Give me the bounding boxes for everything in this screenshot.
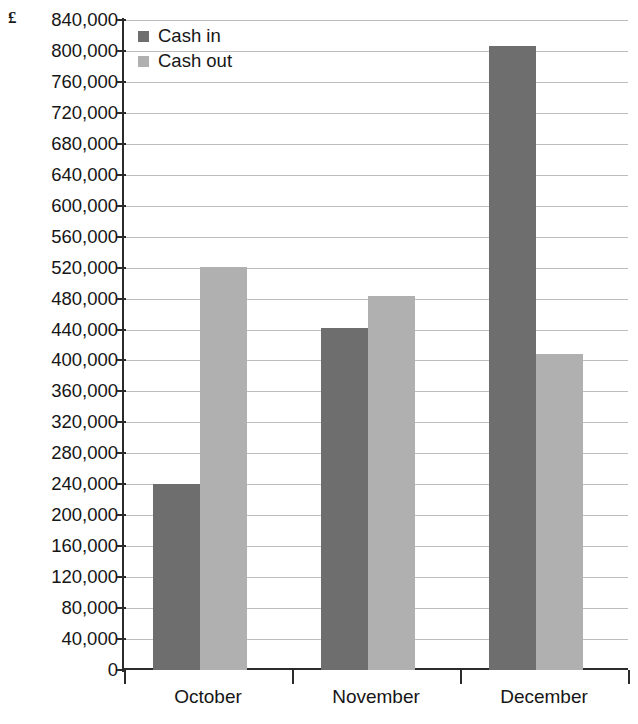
x-axis-tick-mark	[628, 670, 630, 684]
y-axis-tick-label: 160,000	[10, 537, 118, 556]
x-axis-tick-mark	[460, 670, 462, 684]
y-axis-tick-label: 720,000	[10, 104, 118, 123]
gridline	[124, 237, 628, 238]
bar-october-cash-out	[200, 267, 247, 670]
y-axis-tick-mark	[117, 205, 126, 207]
gridline	[124, 20, 628, 21]
y-axis-tick-mark	[117, 236, 126, 238]
y-axis-tick-mark	[117, 267, 126, 269]
y-axis-tick-mark	[117, 483, 126, 485]
y-axis-tick-mark	[117, 298, 126, 300]
bar-chart: £ 840,000800,000760,000720,000680,000640…	[0, 0, 638, 724]
bar-november-cash-in	[321, 328, 368, 670]
x-axis-category-label-october: October	[124, 686, 292, 708]
y-axis-tick-label: 80,000	[10, 599, 118, 618]
gridline	[124, 113, 628, 114]
legend-swatch-icon-cash-in	[138, 31, 149, 42]
x-axis-tick-mark	[292, 670, 294, 684]
y-axis-tick-label: 240,000	[10, 475, 118, 494]
y-axis-tick-label: 320,000	[10, 413, 118, 432]
plot-area	[124, 20, 628, 670]
y-axis-tick-label: 800,000	[10, 42, 118, 61]
legend-label-cash-in: Cash in	[158, 27, 221, 46]
y-axis-tick-label: 560,000	[10, 228, 118, 247]
y-axis-tick-mark	[117, 390, 126, 392]
y-axis-tick-mark	[117, 545, 126, 547]
x-axis-category-label-december: December	[460, 686, 628, 708]
y-axis-tick-mark	[117, 359, 126, 361]
y-axis-tick-mark	[117, 174, 126, 176]
y-axis-tick-label: 600,000	[10, 197, 118, 216]
y-axis-tick-label: 480,000	[10, 290, 118, 309]
legend-item-cash-in: Cash in	[138, 24, 232, 49]
y-axis-tick-mark	[117, 638, 126, 640]
y-axis-tick-label: 680,000	[10, 135, 118, 154]
bar-december-cash-out	[536, 354, 583, 670]
y-axis-tick-label: 280,000	[10, 444, 118, 463]
y-axis-tick-mark	[117, 576, 126, 578]
y-axis-tick-mark	[117, 19, 126, 21]
y-axis-tick-mark	[117, 50, 126, 52]
y-axis-tick-label: 360,000	[10, 382, 118, 401]
y-axis-tick-label: 40,000	[10, 630, 118, 649]
y-axis-tick-label: 640,000	[10, 166, 118, 185]
y-axis-tick-label: 400,000	[10, 351, 118, 370]
y-axis-tick-mark	[117, 607, 126, 609]
gridline	[124, 82, 628, 83]
legend-item-cash-out: Cash out	[138, 49, 232, 74]
bar-november-cash-out	[368, 296, 415, 670]
x-axis-category-label-november: November	[292, 686, 460, 708]
x-axis-tick-mark	[124, 670, 126, 684]
y-axis-tick-mark	[117, 514, 126, 516]
y-axis-tick-label: 840,000	[10, 11, 118, 30]
y-axis-tick-mark	[117, 143, 126, 145]
y-axis-tick-label: 760,000	[10, 73, 118, 92]
y-axis-tick-label: 200,000	[10, 506, 118, 525]
y-axis-tick-mark	[117, 329, 126, 331]
chart-legend: Cash in Cash out	[138, 24, 232, 74]
bar-october-cash-in	[153, 484, 200, 670]
y-axis-tick-mark	[117, 452, 126, 454]
y-axis-tick-label: 120,000	[10, 568, 118, 587]
legend-label-cash-out: Cash out	[158, 52, 232, 71]
y-axis-tick-label: 440,000	[10, 321, 118, 340]
y-axis-tick-label: 520,000	[10, 259, 118, 278]
y-axis-tick-mark	[117, 421, 126, 423]
bar-december-cash-in	[489, 46, 536, 670]
gridline	[124, 206, 628, 207]
y-axis-tick-label: 0	[10, 661, 118, 680]
y-axis-tick-mark	[117, 81, 126, 83]
gridline	[124, 144, 628, 145]
gridline	[124, 175, 628, 176]
legend-swatch-icon-cash-out	[138, 56, 149, 67]
y-axis-tick-mark	[117, 112, 126, 114]
y-axis-tick-labels: 840,000800,000760,000720,000680,000640,0…	[8, 0, 118, 724]
